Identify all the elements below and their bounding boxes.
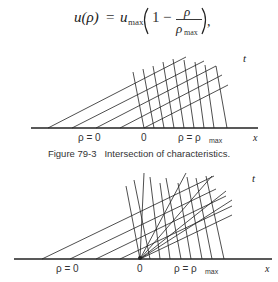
rho-max-label-2: ρ = ρ xyxy=(174,263,197,274)
t-axis-label-2: t xyxy=(252,172,256,184)
fan-characteristics-lines xyxy=(14,173,272,259)
rho-max-sub-2: max xyxy=(205,268,219,275)
figure-expansion-fan: t x ρ = 0 0 ρ = ρ max xyxy=(0,0,278,282)
origin-label-2: 0 xyxy=(137,263,143,274)
x-axis-label-2: x xyxy=(264,263,270,274)
fan-origin-dot xyxy=(138,256,142,260)
rho-zero-label-2: ρ = 0 xyxy=(56,263,79,274)
